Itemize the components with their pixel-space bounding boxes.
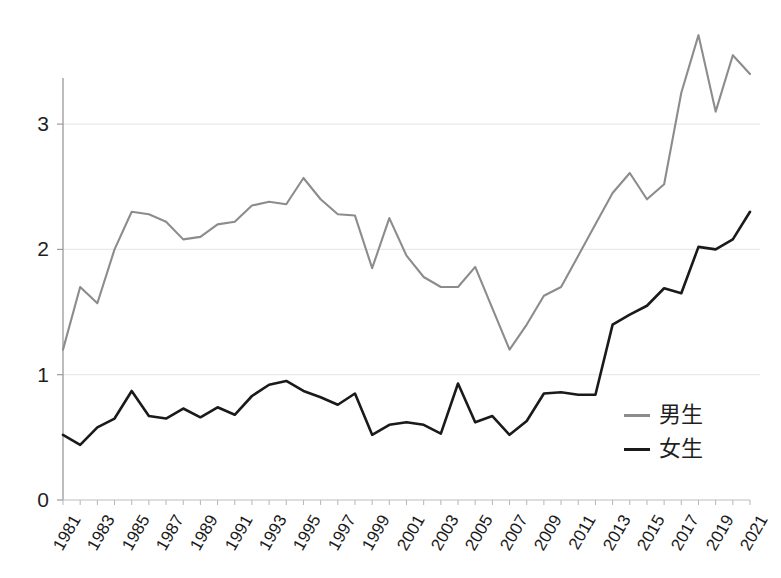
legend-item-male[interactable]: 男生 — [624, 398, 754, 432]
chart-legend: 男生 女生 — [624, 398, 754, 466]
series-line-male — [63, 35, 750, 350]
legend-label-male: 男生 — [659, 404, 703, 426]
chart-plot-area — [0, 0, 781, 578]
data-series — [63, 35, 750, 445]
legend-swatch-male — [624, 414, 650, 417]
chart-container: 0123 19811983198519871989199119931995199… — [0, 0, 781, 578]
y-axis-label: 3 — [15, 113, 49, 134]
y-axis-ticks — [57, 124, 63, 500]
legend-swatch-female — [624, 448, 650, 451]
gridlines — [63, 124, 760, 375]
x-axis-ticks — [63, 500, 750, 505]
legend-label-female: 女生 — [659, 438, 703, 460]
y-axis-label: 2 — [15, 238, 49, 259]
y-axis-label: 0 — [15, 489, 49, 510]
legend-item-female[interactable]: 女生 — [624, 432, 754, 466]
y-axis-label: 1 — [15, 364, 49, 385]
